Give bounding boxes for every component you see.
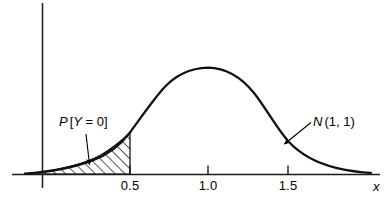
normal-parameters: (1, 1) xyxy=(324,114,354,129)
bracket-close: ] xyxy=(104,114,108,129)
value-zero: 0 xyxy=(97,114,104,129)
x-axis-ticks xyxy=(130,166,288,175)
curve-annotation-arrow xyxy=(285,123,312,145)
normal-distribution-figure: 0.5 1.0 1.5 x P[Y = 0] N(1, 1) xyxy=(0,0,392,205)
shaded-area-arrow xyxy=(86,134,90,165)
equals-sign: = xyxy=(82,114,97,129)
x-tick-label-0-5: 0.5 xyxy=(121,178,140,193)
x-tick-label-1-0: 1.0 xyxy=(199,178,218,193)
x-axis-label: x xyxy=(373,179,380,194)
normal-symbol: N xyxy=(313,114,322,129)
shaded-area-annotation: P[Y = 0] xyxy=(59,114,108,129)
probability-symbol: P xyxy=(59,114,68,129)
random-variable-symbol: Y xyxy=(73,114,82,129)
curve-annotation: N(1, 1) xyxy=(313,114,355,129)
shaded-tail-region xyxy=(20,125,138,179)
x-tick-label-1-5: 1.5 xyxy=(279,178,298,193)
plot-canvas xyxy=(0,0,392,205)
